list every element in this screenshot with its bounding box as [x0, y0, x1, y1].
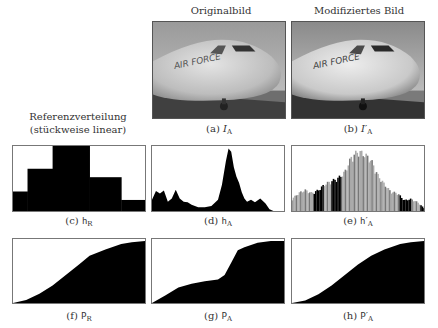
- reference-label-line1: Referenzverteilung: [3, 110, 153, 123]
- histogram-reference-plot: [13, 146, 145, 211]
- cdf-original-plot: [152, 239, 284, 303]
- caption-g: (g) PA: [151, 310, 285, 323]
- cdf-modified: [291, 238, 425, 304]
- caption-c: (c) hR: [12, 215, 146, 228]
- reference-label-line2: (stückweise linear): [3, 123, 153, 136]
- column-title-modified: Modifiziertes Bild: [289, 5, 429, 16]
- caption-e: (e) h′A: [291, 215, 425, 228]
- airplane-photo-original: AIR FORCE: [153, 22, 285, 118]
- caption-b: (b) I′A: [291, 123, 425, 136]
- cdf-modified-plot: [292, 239, 424, 303]
- original-image: AIR FORCE: [152, 21, 286, 119]
- reference-distribution-label: Referenzverteilung (stückweise linear): [3, 110, 153, 136]
- caption-f: (f) PR: [12, 310, 146, 323]
- airplane-photo-modified: AIR FORCE: [292, 22, 424, 118]
- column-title-original: Originalbild: [151, 5, 291, 16]
- cdf-reference-plot: [13, 239, 145, 303]
- histogram-original-plot: [152, 146, 284, 211]
- caption-a: (a) IA: [152, 123, 286, 136]
- histogram-original: [151, 145, 285, 212]
- histogram-modified-plot: [292, 146, 424, 211]
- modified-image: AIR FORCE: [291, 21, 425, 119]
- histogram-reference: [12, 145, 146, 212]
- cdf-original: [151, 238, 285, 304]
- cdf-reference: [12, 238, 146, 304]
- histogram-modified: [291, 145, 425, 212]
- caption-d: (d) hA: [151, 215, 285, 228]
- caption-h: (h) P′A: [291, 310, 425, 323]
